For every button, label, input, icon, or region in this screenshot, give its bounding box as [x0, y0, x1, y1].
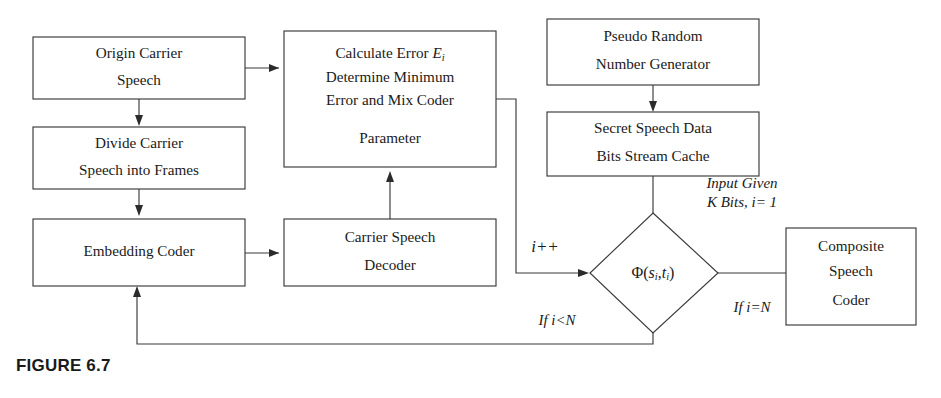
phi-prefix: Φ(	[632, 264, 649, 282]
edge-prng-to-cache	[649, 85, 657, 112]
node-decision-phi[interactable]: Φ(si,ti)	[590, 213, 718, 333]
calculate-error-subscript: i	[442, 52, 445, 63]
flowchart-diagram: Origin Carrier Speech Divide Carrier Spe…	[0, 0, 941, 398]
composite-speech-coder-line-3: Coder	[832, 291, 869, 308]
pseudo-random-line-1: Pseudo Random	[603, 27, 702, 44]
secret-speech-cache-line-2: Bits Stream Cache	[596, 147, 709, 164]
composite-speech-coder-line-1: Composite	[818, 237, 884, 254]
node-origin-carrier-speech[interactable]: Origin Carrier Speech	[33, 37, 245, 99]
node-secret-speech-cache[interactable]: Secret Speech Data Bits Stream Cache	[547, 112, 759, 176]
origin-carrier-speech-line-2: Speech	[117, 71, 161, 88]
edge-label-input-given-line-2: K Bits, i= 1	[706, 194, 777, 210]
edge-label-increment: i++	[531, 237, 559, 256]
edge-embedding-to-decoder	[245, 249, 279, 257]
divide-carrier-speech-line-2: Speech into Frames	[79, 161, 199, 178]
secret-speech-cache-line-1: Secret Speech Data	[594, 119, 712, 136]
node-divide-carrier-speech[interactable]: Divide Carrier Speech into Frames	[33, 127, 245, 189]
origin-carrier-speech-line-1: Origin Carrier	[96, 44, 182, 61]
edge-decoder-to-calculate	[386, 171, 394, 219]
composite-speech-coder-line-2: Speech	[829, 262, 873, 279]
node-embedding-coder[interactable]: Embedding Coder	[33, 219, 245, 286]
calculate-error-prefix: Calculate Error	[335, 44, 432, 61]
edge-divide-to-embedding	[135, 189, 143, 216]
node-carrier-speech-decoder[interactable]: Carrier Speech Decoder	[284, 219, 496, 286]
embedding-coder-label: Embedding Coder	[84, 242, 195, 259]
calculate-error-line-2: Determine Minimum	[326, 68, 455, 85]
edge-label-if-equal-n: If i=N	[732, 299, 771, 315]
figure-caption: FIGURE 6.7	[16, 356, 111, 376]
carrier-speech-decoder-line-1: Carrier Speech	[345, 228, 436, 245]
calculate-error-line-4: Parameter	[359, 129, 421, 146]
divide-carrier-speech-line-1: Divide Carrier	[95, 134, 183, 151]
edge-origin-to-divide	[135, 99, 143, 126]
edge-label-if-less-than-n: If i<N	[537, 312, 576, 328]
edge-origin-to-calculate	[245, 64, 279, 72]
pseudo-random-line-2: Number Generator	[596, 55, 710, 72]
node-pseudo-random-generator[interactable]: Pseudo Random Number Generator	[547, 19, 759, 85]
calculate-error-line-1: Calculate Error Ei	[335, 44, 444, 63]
calculate-error-line-3: Error and Mix Coder	[326, 91, 454, 108]
node-calculate-error[interactable]: Calculate Error Ei Determine Minimum Err…	[284, 31, 496, 167]
phi-suffix: )	[669, 264, 674, 282]
figure-container: Origin Carrier Speech Divide Carrier Spe…	[0, 0, 941, 398]
edge-label-input-given-line-1: Input Given	[705, 175, 777, 191]
node-composite-speech-coder[interactable]: Composite Speech Coder	[786, 228, 916, 325]
carrier-speech-decoder-line-2: Decoder	[364, 256, 415, 273]
